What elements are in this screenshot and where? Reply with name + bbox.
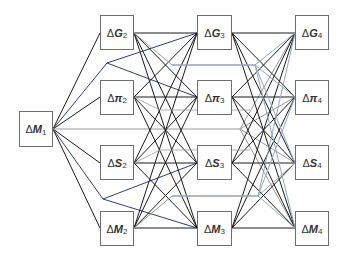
edge bbox=[53, 129, 100, 163]
delta-symbol: Δ bbox=[205, 92, 212, 104]
edge bbox=[240, 97, 295, 129]
node-variable: π bbox=[212, 92, 220, 104]
node-variable: M bbox=[33, 123, 42, 135]
delta-symbol: Δ bbox=[302, 92, 309, 104]
delta-symbol: Δ bbox=[107, 27, 114, 39]
node-variable: π bbox=[310, 92, 318, 104]
node-delta-g4: ΔG4 bbox=[295, 15, 329, 50]
edge bbox=[53, 33, 100, 129]
node-delta-pi4: Δπ4 bbox=[295, 80, 329, 115]
delta-symbol: Δ bbox=[107, 92, 114, 104]
node-subscript: 1 bbox=[42, 128, 46, 137]
node-subscript: 2 bbox=[122, 161, 126, 170]
node-subscript: 3 bbox=[220, 161, 224, 170]
node-variable: π bbox=[115, 92, 123, 104]
node-delta-pi2: Δπ2 bbox=[100, 80, 134, 115]
delta-symbol: Δ bbox=[107, 223, 114, 235]
node-variable: G bbox=[114, 27, 123, 39]
node-subscript: 4 bbox=[318, 31, 322, 40]
node-delta-s2: ΔS2 bbox=[100, 145, 134, 180]
node-variable: G bbox=[309, 27, 318, 39]
node-variable: G bbox=[212, 27, 221, 39]
node-variable: M bbox=[114, 223, 123, 235]
node-delta-s3: ΔS3 bbox=[197, 145, 232, 180]
node-variable: S bbox=[115, 157, 122, 169]
node-subscript: 2 bbox=[122, 96, 126, 105]
delta-symbol: Δ bbox=[302, 223, 309, 235]
node-variable: M bbox=[211, 223, 220, 235]
node-delta-g3: ΔG3 bbox=[197, 15, 232, 50]
delta-symbol: Δ bbox=[26, 123, 33, 135]
delta-symbol: Δ bbox=[204, 27, 211, 39]
node-subscript: 2 bbox=[123, 227, 127, 236]
delta-symbol: Δ bbox=[107, 157, 114, 169]
delta-symbol: Δ bbox=[302, 27, 309, 39]
node-subscript: 3 bbox=[220, 96, 224, 105]
node-subscript: 2 bbox=[123, 31, 127, 40]
edge bbox=[258, 163, 295, 196]
node-subscript: 4 bbox=[317, 161, 321, 170]
node-delta-m2: ΔM2 bbox=[100, 211, 134, 246]
edge bbox=[53, 97, 100, 129]
edge bbox=[53, 129, 100, 228]
node-delta-pi3: Δπ3 bbox=[197, 80, 232, 115]
edge bbox=[255, 65, 295, 228]
node-delta-g2: ΔG2 bbox=[100, 15, 134, 50]
node-delta-m1: ΔM1 bbox=[19, 111, 53, 147]
node-variable: S bbox=[212, 157, 219, 169]
node-variable: M bbox=[309, 223, 318, 235]
node-subscript: 4 bbox=[317, 96, 321, 105]
delta-symbol: Δ bbox=[205, 157, 212, 169]
node-subscript: 4 bbox=[318, 227, 322, 236]
node-variable: S bbox=[310, 157, 317, 169]
node-delta-m3: ΔM3 bbox=[197, 211, 232, 246]
node-delta-s4: ΔS4 bbox=[295, 145, 329, 180]
diagram-canvas: ΔM1 ΔG2 Δπ2 ΔS2 ΔM2 ΔG3 Δπ3 ΔS3 ΔM3 ΔG4 … bbox=[0, 0, 345, 258]
delta-symbol: Δ bbox=[302, 157, 309, 169]
delta-symbol: Δ bbox=[204, 223, 211, 235]
edge bbox=[53, 129, 103, 199]
edge bbox=[258, 97, 295, 196]
node-delta-m4: ΔM4 bbox=[295, 211, 329, 246]
node-subscript: 3 bbox=[220, 31, 224, 40]
node-subscript: 3 bbox=[221, 227, 225, 236]
